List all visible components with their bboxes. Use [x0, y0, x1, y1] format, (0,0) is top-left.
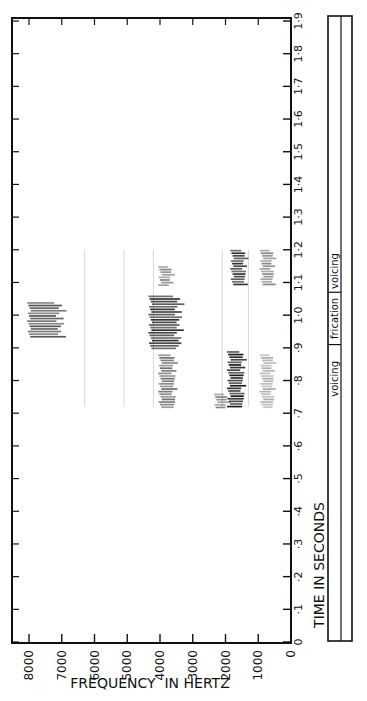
- time-tick-label: ·9: [292, 343, 305, 354]
- segment-label: voicing: [329, 253, 340, 289]
- frequency-axis-ticks: 800070006000500040003000200010000: [22, 18, 298, 681]
- time-axis-title: TIME IN SECONDS: [311, 502, 327, 629]
- energy-region: [27, 302, 66, 338]
- time-tick-label: 1·6: [292, 110, 305, 128]
- energy-region: [148, 296, 184, 350]
- time-tick-label: ·8: [292, 375, 305, 386]
- time-tick-label: ·3: [292, 539, 305, 550]
- spectrogram-energy: [27, 250, 276, 409]
- freq-tick-label: 1000: [251, 650, 265, 681]
- time-tick-label: 1·9: [292, 12, 305, 30]
- time-tick-label: 1·0: [292, 306, 305, 324]
- energy-region: [158, 354, 178, 408]
- freq-tick-label: 0: [284, 650, 298, 658]
- energy-region: [158, 266, 175, 286]
- freq-tick-label: 8000: [22, 650, 36, 681]
- frequency-axis-title: FREQUENCY IN HERTZ: [70, 675, 229, 691]
- time-tick-label: 0: [292, 639, 305, 646]
- time-tick-label: 1·2: [292, 241, 305, 259]
- segment-label: frication: [329, 298, 340, 339]
- energy-region: [230, 250, 248, 286]
- time-tick-label: 1·3: [292, 208, 305, 226]
- time-tick-label: 1·1: [292, 274, 305, 292]
- spectrogram-chart: 0·1·2·3·4·5·6·7·8·91·01·11·21·31·41·51·6…: [0, 0, 367, 701]
- time-tick-label: ·7: [292, 408, 305, 419]
- time-tick-label: 1·4: [292, 176, 305, 194]
- segment-label-box: voicingfricationvoicing: [328, 16, 352, 641]
- time-tick-label: ·2: [292, 571, 305, 582]
- time-tick-label: 1·8: [292, 45, 305, 63]
- time-tick-label: ·1: [292, 604, 305, 615]
- segment-label: voicing: [329, 361, 340, 397]
- time-tick-label: ·6: [292, 441, 305, 452]
- freq-tick-label: 7000: [55, 650, 69, 681]
- energy-region: [260, 354, 277, 408]
- energy-region: [260, 250, 277, 286]
- time-tick-label: 1·5: [292, 143, 305, 161]
- time-tick-label: ·4: [292, 506, 305, 517]
- energy-region: [227, 351, 247, 407]
- time-tick-label: 1·7: [292, 78, 305, 96]
- time-tick-label: ·5: [292, 473, 305, 484]
